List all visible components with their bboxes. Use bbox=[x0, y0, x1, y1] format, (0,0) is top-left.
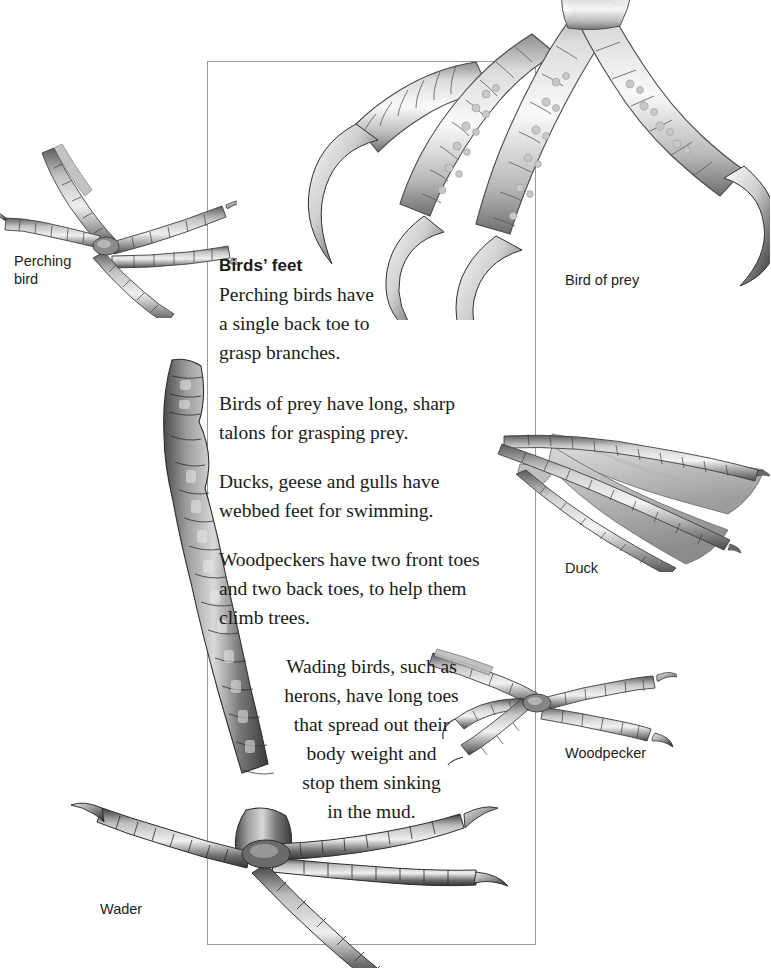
perching-bird-foot-illustration bbox=[0, 138, 237, 318]
page-title: Birds’ feet bbox=[219, 256, 524, 276]
label-bird-of-prey: Bird of prey bbox=[565, 271, 639, 289]
label-woodpecker: Woodpecker bbox=[565, 744, 646, 762]
text-block: Birds’ feet Perching birds have a single… bbox=[219, 256, 524, 826]
label-duck: Duck bbox=[565, 559, 598, 577]
paragraph-duck: Ducks, geese and gulls have webbed feet … bbox=[219, 467, 524, 525]
paragraph-perching: Perching birds have a single back toe to… bbox=[219, 280, 524, 367]
paragraph-bird-of-prey: Birds of prey have long, sharp talons fo… bbox=[219, 389, 524, 447]
paragraph-wader: Wading birds, such as herons, have long … bbox=[219, 652, 524, 826]
label-wader: Wader bbox=[100, 900, 142, 918]
duck-foot-illustration bbox=[492, 412, 770, 572]
label-perching-bird: Perching bird bbox=[14, 252, 71, 288]
paragraph-woodpecker: Woodpeckers have two front toes and two … bbox=[219, 545, 524, 632]
page-root: Birds’ feet Perching birds have a single… bbox=[0, 0, 771, 977]
